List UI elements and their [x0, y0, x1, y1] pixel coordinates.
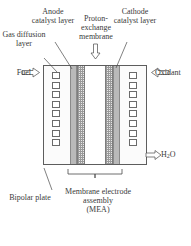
channel-square [129, 130, 137, 137]
cathode-catalyst-layer [113, 66, 120, 164]
label-membrane-electrode-assembly: Membrane electrode assembly (MEA) [62, 187, 134, 214]
channel-square [129, 101, 137, 108]
label-fuel: Fuel [3, 68, 31, 77]
channel-square [129, 91, 137, 98]
channel-square [52, 139, 60, 146]
label-water-o: O [170, 150, 176, 159]
channel-square [52, 130, 60, 137]
label-bipolar-plate: Bipolar plate [4, 193, 56, 202]
label-water: H2O [161, 150, 189, 161]
channel-square [52, 110, 60, 117]
membrane-channel [85, 66, 105, 164]
channel-square [52, 101, 60, 108]
label-gas-diffusion-layer: Gas diffusion layer [2, 30, 46, 48]
label-mea-text: Membrane electrode assembly [62, 187, 134, 205]
fuel-cell-diagram: Gas diffusion layer Anode catalyst layer… [0, 0, 191, 246]
leader-bipolar-plate [44, 168, 52, 190]
channel-square [52, 82, 60, 89]
channel-square [52, 120, 60, 127]
arrow-down-icon [91, 44, 100, 59]
arrow-right-icon-water [146, 151, 161, 160]
label-mea-abbrev: (MEA) [62, 205, 134, 214]
channel-square [129, 120, 137, 127]
channel-square [129, 110, 137, 117]
mea-brace [68, 169, 122, 178]
label-anode-catalyst-layer: Anode catalyst layer [31, 7, 75, 25]
proton-exchange-membrane-left [77, 66, 85, 164]
channel-square [52, 72, 60, 79]
channel-square [52, 91, 60, 98]
channel-square [129, 72, 137, 79]
label-cathode-catalyst-layer: Cathode catalyst layer [113, 7, 157, 25]
bipolar-plate-channels-right [129, 72, 138, 146]
bipolar-plate-channels-left [52, 72, 61, 146]
label-oxidant: Oxidant [155, 68, 191, 77]
fuel-cell-body [43, 65, 147, 165]
channel-square [129, 139, 137, 146]
channel-square [129, 82, 137, 89]
anode-catalyst-layer [70, 66, 77, 164]
proton-exchange-membrane-right [105, 66, 113, 164]
